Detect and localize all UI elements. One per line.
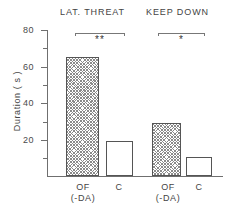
y-tick-30 <box>43 122 47 123</box>
bar-lat-threat-of <box>66 57 99 176</box>
bar-keep-down-of <box>152 123 181 176</box>
x-label-keep-down-c: C <box>186 182 212 192</box>
y-tick-50 <box>43 85 47 86</box>
x-label-text: OF <box>147 182 189 192</box>
x-label-text: OF <box>62 182 104 192</box>
y-tick-label-40: 40 <box>10 98 34 108</box>
x-sublabel-text: (-DA) <box>147 193 189 203</box>
significance-stars-lat-threat: ** <box>75 35 125 45</box>
x-axis-line <box>47 176 223 177</box>
x-label-lat-threat-c: C <box>106 182 132 192</box>
plot-area: 80 60 40 20 OF (-DA) C OF (-DA) C <box>0 0 235 213</box>
x-label-lat-threat-of: OF (-DA) <box>62 182 104 203</box>
y-tick-20 <box>41 140 47 141</box>
x-sublabel-text: (-DA) <box>62 193 104 203</box>
y-tick-label-60: 60 <box>10 62 34 72</box>
x-label-text: C <box>186 182 212 192</box>
x-label-keep-down-of: OF (-DA) <box>147 182 189 203</box>
y-tick-10 <box>43 158 47 159</box>
y-tick-80 <box>41 30 47 31</box>
x-label-text: C <box>106 182 132 192</box>
significance-stars-keep-down: * <box>158 35 205 45</box>
bar-lat-threat-c <box>106 141 133 176</box>
bar-keep-down-c <box>186 157 212 176</box>
y-tick-70 <box>43 48 47 49</box>
y-tick-40 <box>41 103 47 104</box>
y-axis-line <box>47 30 48 177</box>
bar-chart-figure: LAT. THREAT KEEP DOWN Duration ( s ) 80 … <box>0 0 235 213</box>
y-tick-label-80: 80 <box>10 25 34 35</box>
y-tick-label-20: 20 <box>10 135 34 145</box>
y-tick-60 <box>41 67 47 68</box>
